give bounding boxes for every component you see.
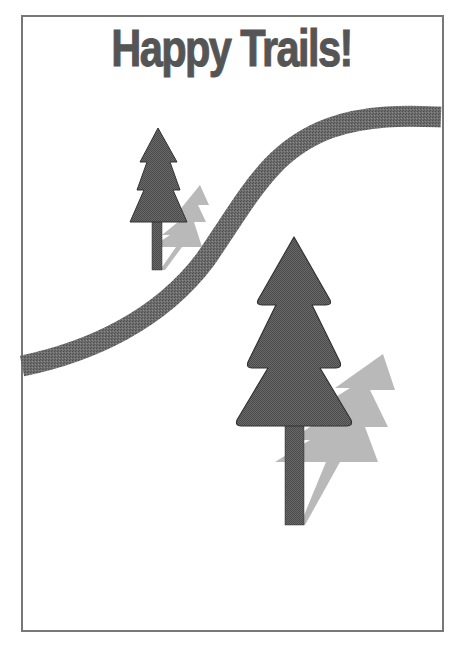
poster-title: Happy Trails!	[64, 14, 399, 82]
trail-path	[22, 116, 441, 366]
poster-canvas: Happy Trails!	[0, 0, 454, 649]
illustration	[0, 0, 454, 649]
large-tree-icon	[237, 237, 352, 525]
